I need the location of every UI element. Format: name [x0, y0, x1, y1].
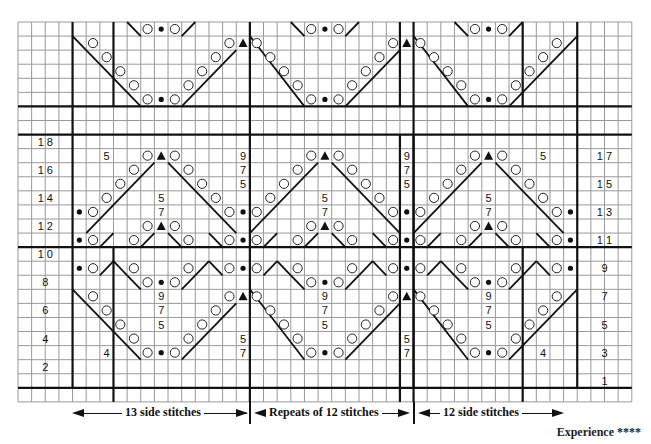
decrease-line — [209, 261, 223, 275]
stitch-count-label: 7 — [158, 206, 164, 218]
row-number-left: 1 0 — [38, 248, 53, 260]
stitch-count-label: 7 — [322, 304, 328, 316]
yarn-over-icon — [293, 334, 302, 343]
yarn-over-icon — [252, 235, 261, 244]
stitch-count-label: 7 — [404, 347, 410, 359]
yarn-over-icon — [88, 207, 97, 216]
yarn-over-icon — [443, 67, 452, 76]
stitch-count-label: 7 — [322, 206, 328, 218]
yarn-over-icon — [552, 207, 561, 216]
yarn-over-icon — [252, 292, 261, 301]
decrease-line — [441, 261, 455, 275]
yarn-over-icon — [225, 39, 234, 48]
arrow-right-icon — [236, 409, 248, 417]
bobble-dot-icon — [77, 266, 82, 271]
decrease-line — [141, 233, 155, 247]
bobble-dot-icon — [568, 209, 573, 214]
bobble-dot-icon — [77, 209, 82, 214]
yarn-over-icon — [334, 221, 343, 230]
yarn-over-icon — [279, 179, 288, 188]
arrow-right-icon — [398, 409, 410, 417]
yarn-over-icon — [293, 81, 302, 90]
yarn-over-icon — [293, 264, 302, 273]
decrease-line — [523, 261, 537, 275]
stitch-count-label: 5 — [486, 192, 492, 204]
yarn-over-icon — [348, 235, 357, 244]
bobble-dot-icon — [322, 280, 327, 285]
row-number-left: 2 — [42, 361, 48, 373]
double-decrease-icon — [320, 222, 329, 231]
stitch-count-label: 4 — [104, 347, 110, 359]
double-decrease-icon — [484, 151, 493, 160]
yarn-over-icon — [552, 264, 561, 273]
stitch-count-label: 5 — [104, 150, 110, 162]
yarn-over-icon — [198, 320, 207, 329]
yarn-over-icon — [375, 193, 384, 202]
knitting-chart: 597557579755759759759755757441 81 61 41 … — [0, 0, 651, 444]
yarn-over-icon — [361, 320, 370, 329]
yarn-over-icon — [307, 221, 316, 230]
double-decrease-icon — [239, 292, 248, 301]
row-number-left: 1 2 — [38, 220, 53, 232]
yarn-over-icon — [225, 292, 234, 301]
yarn-over-icon — [443, 320, 452, 329]
stitch-count-label: 9 — [240, 150, 246, 162]
decrease-line — [277, 261, 291, 275]
yarn-over-icon — [279, 67, 288, 76]
yarn-over-icon — [307, 95, 316, 104]
yarn-over-icon — [102, 193, 111, 202]
row-number-left: 1 6 — [38, 164, 53, 176]
yarn-over-icon — [198, 67, 207, 76]
yarn-over-icon — [266, 306, 275, 315]
bobble-dot-icon — [486, 350, 491, 355]
decrease-line — [345, 275, 359, 289]
yarn-over-icon — [334, 348, 343, 357]
yarn-over-icon — [389, 39, 398, 48]
yarn-over-icon — [525, 179, 534, 188]
bobble-dot-icon — [322, 97, 327, 102]
yarn-over-icon — [88, 292, 97, 301]
row-number-right: 1 7 — [597, 150, 612, 162]
yarn-over-icon — [184, 264, 193, 273]
yarn-over-icon — [225, 207, 234, 216]
experience-rating: Experience **** — [557, 425, 641, 440]
row-number-right: 9 — [601, 262, 607, 274]
decrease-line — [291, 22, 305, 36]
decrease-line — [509, 36, 577, 106]
yarn-over-icon — [443, 179, 452, 188]
separator-left — [249, 402, 251, 424]
yarn-over-icon — [375, 306, 384, 315]
yarn-over-icon — [348, 165, 357, 174]
yarn-over-icon — [129, 165, 138, 174]
yarn-over-icon — [429, 306, 438, 315]
yarn-over-icon — [129, 264, 138, 273]
decrease-line — [100, 233, 114, 247]
side-stitches-right-label: 12 side stitches — [440, 405, 522, 420]
bobble-dot-icon — [404, 266, 409, 271]
stitch-count-label: 4 — [540, 347, 546, 359]
yarn-over-icon — [389, 207, 398, 216]
stitch-count-label: 7 — [486, 304, 492, 316]
row-number-right: 1 3 — [597, 206, 612, 218]
decrease-line — [536, 261, 550, 275]
double-decrease-icon — [484, 222, 493, 231]
yarn-over-icon — [88, 264, 97, 273]
yarn-over-icon — [116, 179, 125, 188]
yarn-over-icon — [266, 53, 275, 62]
yarn-over-icon — [88, 39, 97, 48]
bobble-dot-icon — [77, 237, 82, 242]
yarn-over-icon — [293, 165, 302, 174]
stitch-count-label: 5 — [486, 319, 492, 331]
yarn-over-icon — [470, 95, 479, 104]
decrease-line — [182, 275, 196, 289]
yarn-over-icon — [348, 334, 357, 343]
yarn-over-icon — [143, 278, 152, 287]
decrease-line — [454, 275, 468, 289]
row-number-right: 3 — [601, 347, 607, 359]
yarn-over-icon — [361, 179, 370, 188]
repeats-label: Repeats of 12 stitches — [266, 405, 382, 420]
yarn-over-icon — [252, 264, 261, 273]
yarn-over-icon — [143, 348, 152, 357]
stitch-count-label: 5 — [404, 178, 410, 190]
double-decrease-icon — [402, 39, 411, 48]
